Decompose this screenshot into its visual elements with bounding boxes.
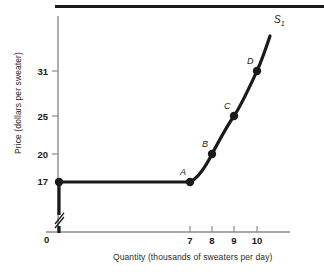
data-point-label-b: B — [202, 139, 208, 149]
origin-label: 0 — [44, 234, 49, 245]
y-axis-title: Price (dollars per sweater) — [13, 38, 23, 168]
x-tick-label-7: 7 — [180, 235, 200, 246]
curve-origin-marker — [55, 178, 63, 186]
data-point-a-marker — [186, 178, 194, 186]
data-point-d-marker — [253, 67, 261, 75]
curve-label-text: S — [274, 14, 281, 25]
data-point-b-marker — [208, 150, 216, 158]
x-tick-label-10: 10 — [246, 235, 268, 246]
data-point-label-d: D — [247, 56, 254, 66]
y-tick-label-17: 17 — [18, 176, 48, 187]
x-tick-label-8: 8 — [202, 235, 222, 246]
chart-canvas — [0, 0, 324, 272]
supply-curve-figure: 31 25 20 17 7 8 9 10 0 A B C D S1 Price … — [0, 0, 324, 272]
data-point-c-marker — [230, 112, 238, 120]
x-tick-label-9: 9 — [224, 235, 244, 246]
curve-label-s1: S1 — [274, 14, 285, 27]
data-point-label-c: C — [224, 101, 231, 111]
curve-label-subscript: 1 — [281, 20, 285, 27]
data-point-label-a: A — [180, 167, 186, 177]
x-axis-title: Quantity (thousands of sweaters per day) — [113, 252, 272, 262]
